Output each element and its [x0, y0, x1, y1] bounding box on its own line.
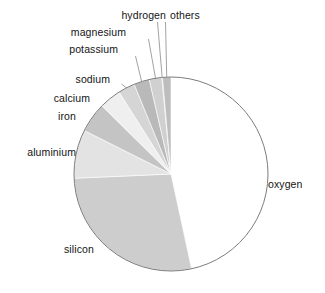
pie-label-potassium: potassium	[34, 43, 118, 55]
leader-line-potassium	[136, 56, 142, 82]
leader-line-iron	[80, 117, 92, 118]
pie-label-sodium: sodium	[34, 73, 110, 85]
pie-label-others: others	[170, 9, 200, 21]
pie-label-silicon: silicon	[64, 243, 94, 255]
pie-label-aluminium: aluminium	[8, 146, 76, 158]
leader-line-others	[166, 22, 167, 77]
pie-slice-silicon	[74, 174, 191, 271]
leader-line-magnesium	[149, 39, 156, 78]
leader-line-sodium	[122, 84, 127, 88]
pie-label-magnesium: magnesium	[34, 26, 126, 38]
pie-slice-group	[74, 77, 268, 271]
pie-label-iron: iron	[18, 110, 76, 122]
leader-line-hydrogen	[158, 22, 163, 77]
leader-line-calcium	[92, 98, 110, 100]
pie-label-hydrogen: hydrogen	[98, 9, 166, 21]
pie-label-oxygen: oxygen	[268, 178, 302, 190]
pie-label-calcium: calcium	[22, 92, 90, 104]
pie-chart-figure: oxygen silicon aluminium iron calcium so…	[0, 0, 325, 293]
